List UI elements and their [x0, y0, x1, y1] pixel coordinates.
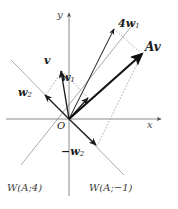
- vector-4w1: [69, 29, 114, 119]
- vector-label-w1-sub: 1: [70, 76, 74, 84]
- eigenspace-label-lambda-neg1-text: W(A;−1): [89, 182, 132, 193]
- vector-label-neg-w2: −w2: [61, 146, 84, 158]
- eigenspace-label-lambda-neg1: W(A;−1): [89, 183, 132, 193]
- eigenspace-label-lambda-4-text: W(A;4): [7, 182, 42, 193]
- vector-label-4w1: 4w1: [118, 18, 140, 30]
- vector-label-4w1-text: 4w: [118, 17, 135, 30]
- figure-canvas: [0, 0, 178, 209]
- vector-label-w1: w1: [61, 72, 75, 84]
- vector-label-v: v: [44, 55, 50, 66]
- axis-y-label-text: y: [57, 9, 63, 20]
- vector-neg-w2: [69, 119, 96, 145]
- vector-Av: [69, 54, 142, 119]
- origin-label: O: [57, 121, 65, 131]
- axis-x-label: x: [147, 120, 153, 130]
- eigenvector-decomposition-figure: x y O v w1 w2 −w2 4w1 Av W(A;4) W(A;−1): [0, 0, 178, 209]
- vector-label-neg-w2-text: −w: [61, 145, 80, 158]
- vector-label-4w1-sub: 1: [135, 22, 139, 30]
- axis-x-label-text: x: [147, 119, 153, 130]
- vector-label-Av: Av: [145, 41, 161, 53]
- vector-label-neg-w2-sub: 2: [80, 150, 84, 158]
- vector-label-w2-sub: 2: [27, 91, 31, 99]
- vector-label-w2: w2: [18, 87, 32, 99]
- origin-label-text: O: [57, 120, 65, 131]
- eigenspace-line-lambda-4: [21, 23, 134, 165]
- vector-label-Av-text: Av: [145, 40, 161, 54]
- eigenspace-label-lambda-4: W(A;4): [7, 183, 42, 193]
- axis-y-label: y: [57, 10, 63, 20]
- vector-label-v-text: v: [44, 54, 50, 67]
